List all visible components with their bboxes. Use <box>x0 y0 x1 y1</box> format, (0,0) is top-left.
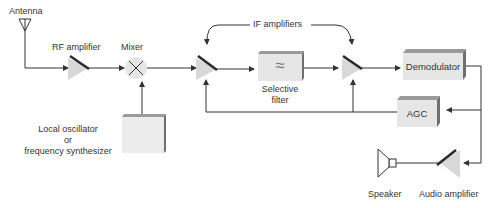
selective-filter-label: Selective filter <box>250 84 310 106</box>
antenna-label: Antenna <box>9 6 43 17</box>
mixer-icon <box>125 57 196 117</box>
speaker-label: Speaker <box>368 189 402 200</box>
if-amplifiers-label: IF amplifiers <box>253 19 302 30</box>
receiver-diagram <box>0 0 490 208</box>
mixer-label: Mixer <box>121 42 143 53</box>
demodulator-label: Demodulator <box>403 61 463 72</box>
agc-label: AGC <box>397 108 437 119</box>
filter-symbol: ≈ <box>258 56 302 76</box>
local-oscillator-block <box>122 114 166 153</box>
local-oscillator-label: Local oscillator or frequency synthesize… <box>18 124 118 157</box>
audio-amplifier-icon <box>396 150 460 178</box>
rf-amplifier-icon <box>68 56 124 80</box>
rf-amplifier-label: RF amplifier <box>52 42 101 53</box>
speaker-icon <box>378 149 396 177</box>
audio-amplifier-label: Audio amplifier <box>419 189 479 200</box>
if-amplifier-2-icon <box>342 56 400 80</box>
if-amplifier-1-icon <box>196 56 254 80</box>
